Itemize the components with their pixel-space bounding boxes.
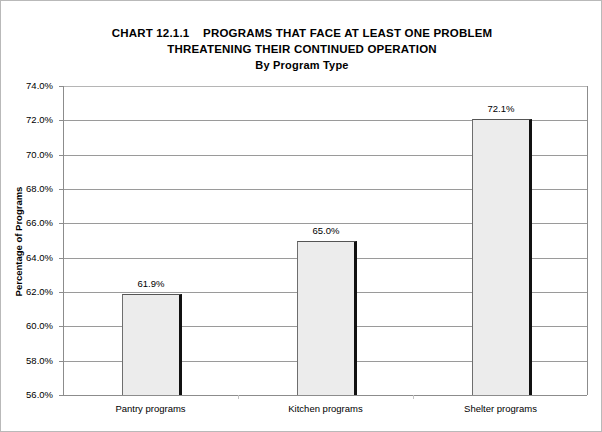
bar-value-label: 61.9% [96, 278, 206, 289]
y-axis-tick-label: 68.0% [3, 183, 53, 194]
bar [472, 119, 532, 395]
x-axis-category-label: Pantry programs [63, 403, 238, 414]
y-axis-tick [59, 292, 64, 293]
y-axis-tick-label: 64.0% [3, 252, 53, 263]
x-axis-category-label: Shelter programs [413, 403, 588, 414]
y-axis-tick-label: 70.0% [3, 149, 53, 160]
y-axis-tick-label: 58.0% [3, 355, 53, 366]
y-axis-title-text: Percentage of Programs [14, 186, 25, 296]
chart-title-block: CHART 12.1.1 PROGRAMS THAT FACE AT LEAST… [1, 25, 602, 73]
bar [122, 294, 182, 395]
y-axis-title: Percentage of Programs [11, 136, 27, 346]
bar-value-label: 65.0% [271, 225, 381, 236]
chart-title-line-2: THREATENING THEIR CONTINUED OPERATION [1, 41, 602, 57]
y-axis-tick-label: 60.0% [3, 320, 53, 331]
x-axis-category-label: Kitchen programs [238, 403, 413, 414]
y-axis-tick [59, 258, 64, 259]
plot-area [63, 86, 588, 395]
y-axis-tick-label: 66.0% [3, 217, 53, 228]
gridline [64, 86, 587, 87]
y-axis-tick [59, 361, 64, 362]
chart-figure: CHART 12.1.1 PROGRAMS THAT FACE AT LEAST… [0, 0, 602, 432]
y-axis-tick-label: 74.0% [3, 80, 53, 91]
y-axis-tick [59, 395, 64, 396]
bar [297, 241, 357, 396]
y-axis-tick [59, 326, 64, 327]
bar-value-label: 72.1% [446, 103, 556, 114]
y-axis-tick-label: 56.0% [3, 389, 53, 400]
chart-subtitle: By Program Type [1, 57, 602, 73]
x-axis-tick [413, 395, 414, 399]
y-axis-tick-label: 62.0% [3, 286, 53, 297]
gridline [64, 395, 587, 396]
chart-title-line-1: CHART 12.1.1 PROGRAMS THAT FACE AT LEAST… [1, 25, 602, 41]
y-axis-tick-label: 72.0% [3, 114, 53, 125]
x-axis-tick [238, 395, 239, 399]
y-axis-tick [59, 155, 64, 156]
y-axis-tick [59, 189, 64, 190]
y-axis-tick [59, 223, 64, 224]
y-axis-tick [59, 120, 64, 121]
y-axis-tick [59, 86, 64, 87]
